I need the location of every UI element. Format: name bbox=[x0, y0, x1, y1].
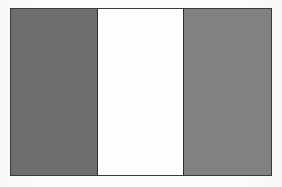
flag-band-middle bbox=[97, 9, 184, 175]
flag-band-fly bbox=[184, 9, 271, 175]
flag-band-hoist bbox=[11, 9, 97, 175]
image-canvas bbox=[0, 0, 282, 187]
flag-graphic bbox=[10, 8, 272, 176]
